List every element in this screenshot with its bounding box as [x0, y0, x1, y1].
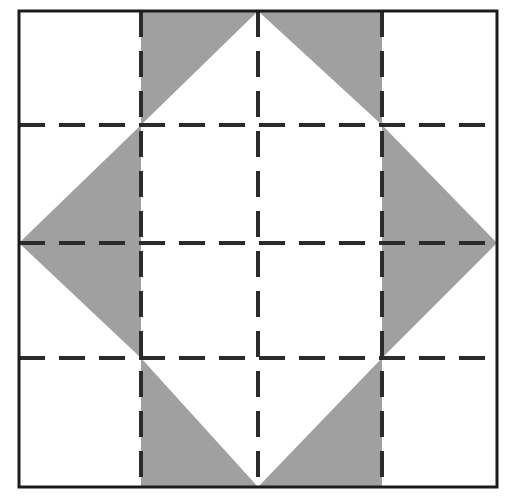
quilt-block-diagram: Nine-patch quilt block with inscribed sh…	[0, 0, 512, 500]
geometric-figure-container: Nine-patch quilt block with inscribed sh…	[0, 0, 512, 500]
